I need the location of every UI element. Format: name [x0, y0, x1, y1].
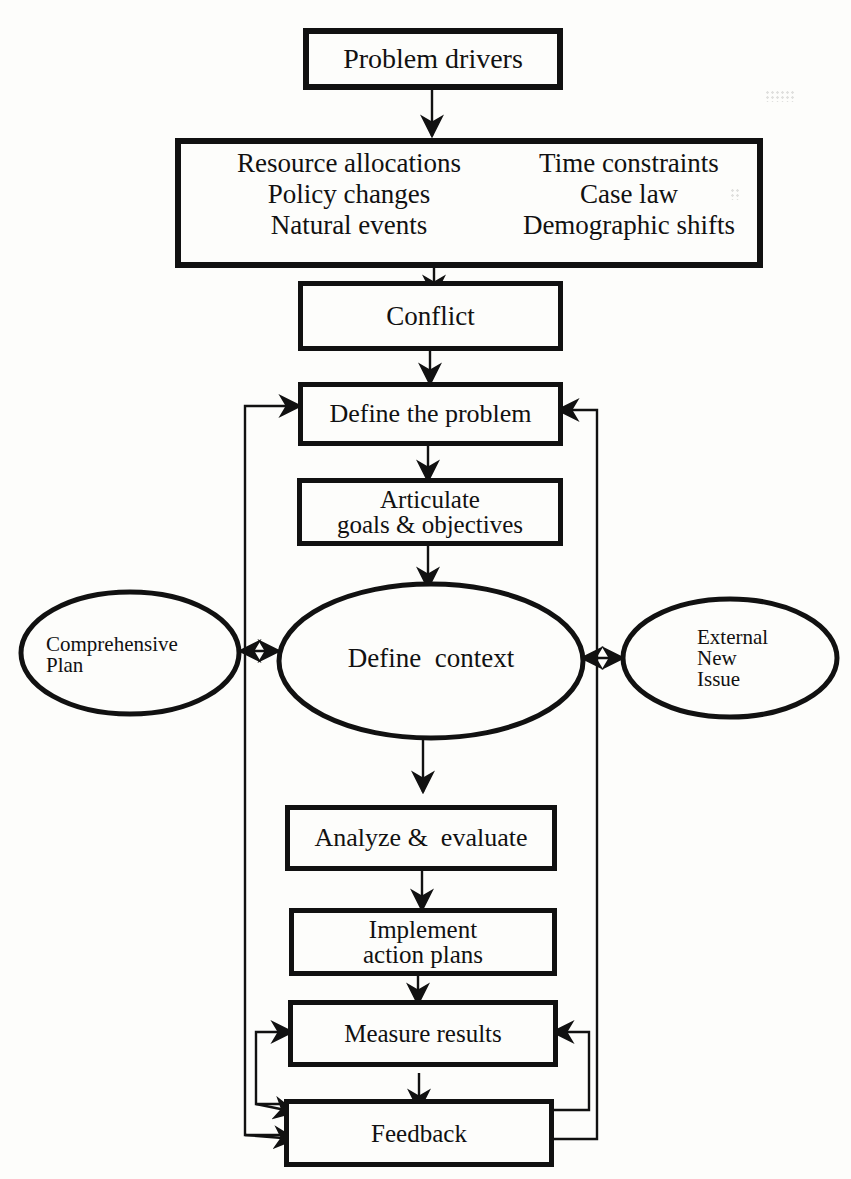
driver-resource-allocations: Resource allocations [199, 150, 499, 177]
comprehensive-plan-line1: Comprehensive [46, 634, 178, 655]
driver-demographic-shifts: Demographic shifts [499, 212, 759, 239]
driver-case-law: Case law [499, 181, 759, 208]
drivers-list-box: Resource allocations Time constraints Po… [175, 138, 763, 268]
articulate-goals-line1: Articulate [380, 487, 480, 512]
scan-speck [765, 90, 795, 102]
define-problem-box: Define the problem [298, 382, 563, 446]
driver-natural-events: Natural events [199, 212, 499, 239]
comprehensive-plan-label: Comprehensive Plan [46, 634, 178, 676]
external-new-issue-line2: New [697, 648, 768, 669]
implement-plans-box: Implement action plans [289, 908, 557, 976]
conflict-label: Conflict [386, 303, 475, 330]
scan-speck [730, 188, 740, 200]
implement-plans-line1: Implement [369, 917, 477, 942]
analyze-evaluate-box: Analyze & evaluate [285, 805, 557, 871]
loop-inner-left [256, 1032, 292, 1104]
measure-results-box: Measure results [288, 1000, 558, 1067]
implement-plans-line2: action plans [363, 942, 483, 967]
comprehensive-plan-line2: Plan [46, 655, 178, 676]
external-new-issue-label: External New Issue [697, 627, 768, 690]
problem-drivers-label: Problem drivers [343, 45, 523, 73]
external-new-issue-line3: Issue [697, 669, 768, 690]
define-problem-label: Define the problem [329, 401, 531, 427]
define-context-label: Define context [300, 645, 562, 672]
articulate-goals-line2: goals & objectives [337, 512, 523, 537]
conflict-box: Conflict [298, 281, 563, 351]
feedback-box: Feedback [284, 1099, 554, 1167]
articulate-goals-box: Articulate goals & objectives [297, 478, 563, 546]
measure-results-label: Measure results [344, 1021, 502, 1046]
feedback-label: Feedback [371, 1121, 467, 1146]
driver-policy-changes: Policy changes [199, 181, 499, 208]
problem-drivers-box: Problem drivers [303, 28, 563, 90]
analyze-evaluate-label: Analyze & evaluate [315, 825, 528, 851]
driver-time-constraints: Time constraints [499, 150, 759, 177]
external-new-issue-line1: External [697, 627, 768, 648]
